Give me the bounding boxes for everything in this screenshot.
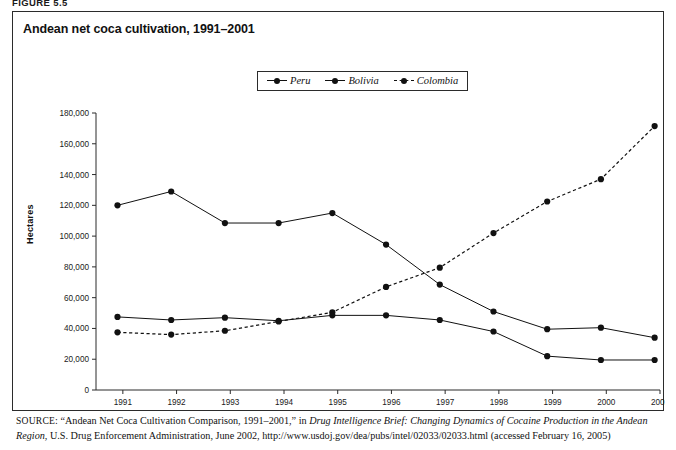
data-point-bolivia [437, 317, 443, 323]
data-point-peru [490, 308, 496, 314]
data-point-bolivia [383, 312, 389, 318]
x-tick-label: 1993 [221, 398, 240, 407]
source-text-2: , U.S. Drug Enforcement Administration, … [45, 430, 611, 441]
x-tick-label: 2001 [651, 398, 665, 407]
source-label: SOURCE [16, 415, 55, 426]
data-point-colombia [276, 318, 282, 324]
series-line-colombia [117, 126, 654, 335]
y-tick-label: 60,000 [64, 294, 89, 303]
data-point-bolivia [168, 317, 174, 323]
data-point-colombia [114, 329, 120, 335]
x-tick-label: 1996 [382, 398, 401, 407]
data-point-colombia [437, 265, 443, 271]
data-point-colombia [544, 198, 550, 204]
y-tick-label: 40,000 [64, 324, 89, 333]
x-tick-label: 1995 [329, 398, 348, 407]
data-point-peru [222, 220, 228, 226]
data-point-peru [598, 325, 604, 331]
data-point-colombia [598, 176, 604, 182]
y-tick-label: 120,000 [59, 201, 89, 210]
series-line-bolivia [117, 315, 654, 360]
y-tick-label: 20,000 [64, 355, 89, 364]
x-tick-label: 1997 [436, 398, 455, 407]
data-point-peru [114, 202, 120, 208]
data-point-peru [168, 188, 174, 194]
y-tick-label: 0 [84, 386, 89, 395]
data-point-bolivia [652, 357, 658, 363]
data-point-peru [437, 281, 443, 287]
x-tick-label: 1994 [275, 398, 294, 407]
data-point-peru [652, 335, 658, 341]
data-point-bolivia [544, 353, 550, 359]
x-tick-label: 1992 [167, 398, 186, 407]
plot-area: Hectares 020,00040,00060,00080,000100,00… [13, 12, 665, 412]
figure-label: FIGURE 5.5 [12, 0, 68, 8]
data-point-colombia [383, 284, 389, 290]
data-point-colombia [168, 332, 174, 338]
x-tick-label: 1991 [114, 398, 133, 407]
y-tick-label: 180,000 [59, 109, 89, 118]
data-point-colombia [222, 328, 228, 334]
data-point-peru [544, 326, 550, 332]
data-point-bolivia [490, 328, 496, 334]
line-chart-svg: 020,00040,00060,00080,000100,000120,0001… [13, 12, 665, 412]
data-point-bolivia [114, 314, 120, 320]
data-point-peru [329, 210, 335, 216]
data-point-colombia [490, 230, 496, 236]
data-point-peru [276, 220, 282, 226]
source-note: SOURCE: “Andean Net Coca Cultivation Com… [16, 414, 664, 444]
y-tick-label: 160,000 [59, 140, 89, 149]
data-point-bolivia [222, 315, 228, 321]
x-tick-label: 1998 [490, 398, 509, 407]
y-tick-label: 100,000 [59, 232, 89, 241]
figure-container: FIGURE 5.5 Andean net coca cultivation, … [0, 0, 676, 450]
source-text-1: : “Andean Net Coca Cultivation Compariso… [55, 415, 309, 426]
figure-frame: Andean net coca cultivation, 1991–2001 P… [12, 11, 664, 411]
data-point-peru [383, 241, 389, 247]
data-point-bolivia [598, 357, 604, 363]
x-tick-label: 1999 [543, 398, 562, 407]
y-tick-label: 80,000 [64, 263, 89, 272]
y-tick-label: 140,000 [59, 171, 89, 180]
x-tick-label: 2000 [597, 398, 616, 407]
data-point-colombia [652, 123, 658, 129]
data-point-colombia [329, 309, 335, 315]
